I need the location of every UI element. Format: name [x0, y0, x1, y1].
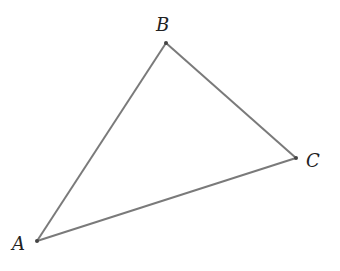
vertex-a-point	[35, 239, 39, 243]
edge-bc	[166, 43, 296, 158]
vertex-b-label: B	[155, 14, 169, 35]
edge-ab	[37, 43, 166, 241]
vertex-c-point	[294, 156, 298, 160]
triangle-diagram: A B C	[0, 0, 340, 271]
diagram-canvas: A B C	[0, 0, 340, 271]
vertex-b-point	[164, 41, 168, 45]
edge-ca	[37, 158, 296, 241]
vertex-a-label: A	[10, 233, 25, 254]
vertex-c-label: C	[306, 150, 320, 171]
